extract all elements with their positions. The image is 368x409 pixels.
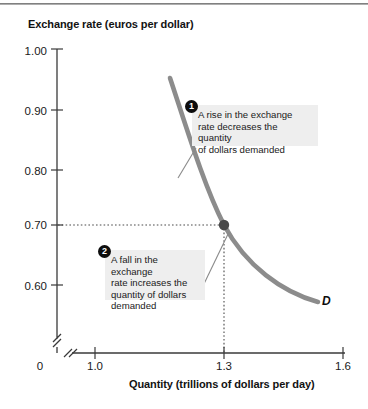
equilibrium-point <box>219 220 229 230</box>
callout-2-leader <box>202 232 229 288</box>
annotation-2-line-4: demanded <box>111 300 200 312</box>
annotation-box-1: A rise in the exchange rate decreases th… <box>192 105 318 146</box>
plot-canvas <box>0 0 368 409</box>
annotation-1-line-1: A rise in the exchange <box>198 109 313 121</box>
annotation-2-line-1: A fall in the exchange <box>111 254 200 277</box>
annotation-1-line-2: rate decreases the quantity <box>198 121 313 144</box>
annotation-2-line-3: quantity of dollars <box>111 289 200 301</box>
annotation-1-badge: 1 <box>185 100 198 113</box>
y-axis-break <box>53 330 61 353</box>
demand-curve-label: D <box>322 294 331 308</box>
exchange-rate-demand-figure: Exchange rate (euros per dollar) 1.00 0.… <box>0 0 368 409</box>
annotation-box-2: A fall in the exchange rate increases th… <box>105 250 205 300</box>
callout-1-leader <box>178 148 196 178</box>
annotation-2-badge: 2 <box>98 245 111 258</box>
annotation-1-line-3: of dollars demanded <box>198 144 313 156</box>
annotation-2-line-2: rate increases the <box>111 277 200 289</box>
